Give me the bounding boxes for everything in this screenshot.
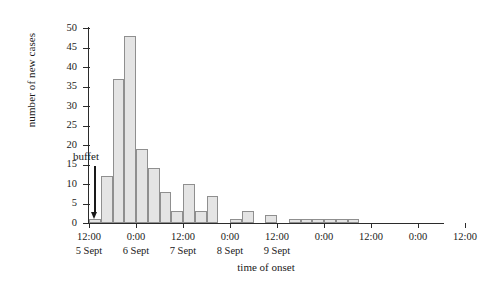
x-tick-label: 0:00 [304, 231, 344, 242]
x-tick [371, 223, 372, 228]
histogram-bar [301, 219, 313, 223]
x-tick [136, 223, 137, 228]
histogram-figure: number of new cases 05101520253035404550… [0, 0, 497, 292]
x-tick [230, 223, 231, 228]
x-tick-label: 12:00 [351, 231, 391, 242]
buffet-annotation-label: buffet [73, 150, 99, 162]
histogram-bar [136, 149, 148, 223]
y-tick-label: 25 [47, 120, 77, 130]
y-tick-label: 35 [47, 81, 77, 91]
histogram-bar [289, 219, 301, 223]
y-tick-label: 50 [47, 23, 77, 33]
x-tick [277, 223, 278, 228]
x-axis-title: time of onset [166, 261, 366, 273]
y-tick [83, 165, 90, 166]
histogram-bar [207, 196, 219, 223]
histogram-bar [265, 215, 277, 223]
histogram-bar [336, 219, 348, 223]
x-tick-label: 12:00 [163, 231, 203, 242]
y-tick [83, 126, 90, 127]
x-tick-label: 12:00 [445, 231, 485, 242]
x-tick-label: 0:00 [116, 231, 156, 242]
histogram-bar [113, 79, 125, 223]
histogram-bar [89, 219, 101, 223]
y-tick [83, 184, 90, 185]
x-tick-label: 0:00 [210, 231, 250, 242]
histogram-bar [101, 176, 113, 223]
y-tick [83, 145, 90, 146]
x-tick [183, 223, 184, 228]
histogram-bar [148, 168, 160, 223]
y-tick [83, 87, 90, 88]
histogram-bar [324, 219, 336, 223]
y-tick-label: 10 [47, 179, 77, 189]
x-tick-label: 12:00 [257, 231, 297, 242]
day-label: 9 Sept [247, 245, 307, 256]
y-tick [83, 204, 90, 205]
y-tick-label: 40 [47, 62, 77, 72]
y-tick [83, 106, 90, 107]
x-tick [465, 223, 466, 228]
histogram-bar [348, 219, 360, 223]
y-tick [83, 67, 90, 68]
histogram-bar [171, 211, 183, 223]
histogram-bar [183, 184, 195, 223]
x-axis-line [88, 223, 444, 224]
x-tick [418, 223, 419, 228]
buffet-arrow-shaft [94, 166, 95, 213]
y-tick-label: 20 [47, 140, 77, 150]
x-tick [324, 223, 325, 228]
y-tick-label: 0 [47, 218, 77, 228]
y-tick [83, 28, 90, 29]
buffet-arrow-head [91, 212, 97, 219]
x-tick-label: 12:00 [69, 231, 109, 242]
histogram-bar [230, 219, 242, 223]
y-tick-label: 30 [47, 101, 77, 111]
histogram-bar [195, 211, 207, 223]
y-tick [83, 48, 90, 49]
x-tick-label: 0:00 [398, 231, 438, 242]
y-axis-title: number of new cases [25, 0, 37, 165]
y-tick-label: 45 [47, 42, 77, 52]
x-tick [89, 223, 90, 228]
histogram-bar [242, 211, 254, 223]
histogram-bar [124, 36, 136, 223]
histogram-bar [312, 219, 324, 223]
histogram-bar [160, 192, 172, 223]
y-tick-label: 5 [47, 198, 77, 208]
